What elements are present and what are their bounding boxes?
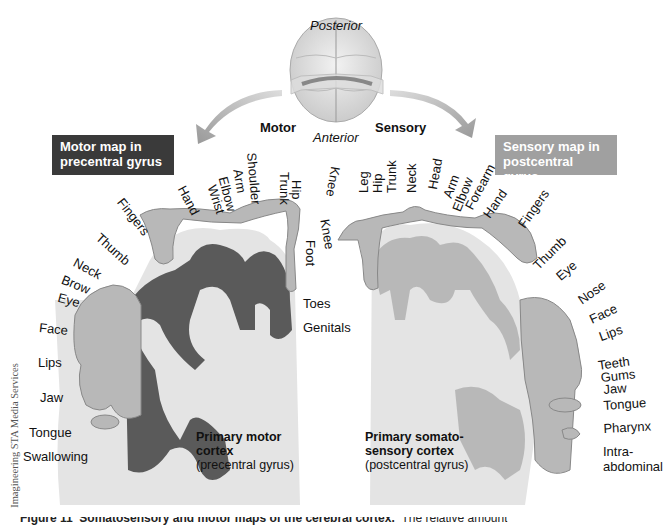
primary-motor-cortex-label: Primary motor cortex (precentral gyrus) xyxy=(196,430,294,472)
image-credit: Imagineering STA Media Services xyxy=(9,363,20,508)
motor-cortex-sub: (precentral gyrus) xyxy=(196,458,294,472)
sensory-map-line2: postcentral gyrus xyxy=(503,154,609,184)
posterior-label: Posterior xyxy=(310,18,362,33)
sensory-label-hip: Hip xyxy=(370,173,385,193)
motor-map-box: Motor map in precentral gyrus xyxy=(52,135,174,175)
arrow-to-motor-icon xyxy=(196,90,282,144)
sensory-label-abdominal: abdominal xyxy=(603,459,663,474)
motor-label-swallowing: Swallowing xyxy=(23,449,88,464)
motor-label-face: Face xyxy=(38,320,68,338)
motor-heading: Motor xyxy=(260,120,296,135)
motor-label-lips: Lips xyxy=(38,355,62,370)
motor-cortex-title1: Primary motor xyxy=(196,430,294,444)
anterior-label: Anterior xyxy=(313,130,359,145)
sensory-map-line1: Sensory map in xyxy=(503,139,609,154)
sensory-label-neck: Neck xyxy=(404,163,419,193)
motor-map-line2: precentral gyrus xyxy=(60,154,166,169)
sensory-label-trunk: Trunk xyxy=(384,160,399,193)
motor-cortex-title2: cortex xyxy=(196,444,294,458)
sensory-label-pharynx: Pharynx xyxy=(603,419,651,436)
sensory-cortex-title1: Primary somato- xyxy=(365,430,469,444)
sensory-cortex-sub: (postcentral gyrus) xyxy=(365,458,469,472)
motor-map-line1: Motor map in xyxy=(60,139,166,154)
motor-label-toes: Toes xyxy=(303,296,330,311)
primary-sensory-cortex-label: Primary somato- sensory cortex (postcent… xyxy=(365,430,469,472)
motor-label-jaw: Jaw xyxy=(40,390,63,405)
sensory-heading: Sensory xyxy=(375,120,426,135)
sensory-label-intra: Intra- xyxy=(603,444,633,459)
sensory-cortex-title2: sensory cortex xyxy=(365,444,469,458)
motor-label-trunk: Trunk xyxy=(277,172,292,205)
sensory-label-jaw: Jaw xyxy=(603,380,627,397)
sensory-label-leg: Leg xyxy=(356,171,371,193)
sensory-map-box: Sensory map in postcentral gyrus xyxy=(495,135,617,175)
motor-label-tongue: Tongue xyxy=(29,425,72,440)
motor-label-foot: Foot xyxy=(303,240,318,266)
sensory-label-tongue: Tongue xyxy=(603,395,647,413)
brain-top-view-icon xyxy=(290,18,383,122)
motor-label-genitals: Genitals xyxy=(303,320,351,335)
